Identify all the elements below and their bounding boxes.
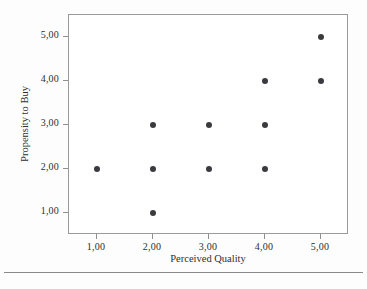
data-point: [262, 166, 268, 172]
x-axis-tick: [208, 234, 209, 239]
data-point: [94, 166, 100, 172]
data-point: [262, 122, 268, 128]
x-axis-title: Perceived Quality: [68, 253, 348, 264]
x-axis-tick: [96, 234, 97, 239]
data-point: [318, 34, 324, 40]
y-axis-tick: [63, 36, 68, 37]
x-axis-tick: [152, 234, 153, 239]
plot-area: [69, 15, 347, 233]
data-point: [206, 166, 212, 172]
data-point: [150, 210, 156, 216]
x-axis-tick-label: 4,00: [234, 241, 294, 252]
x-axis-tick-label: 2,00: [122, 241, 182, 252]
data-point: [206, 122, 212, 128]
x-axis-tick-label: 1,00: [66, 241, 126, 252]
y-axis-tick: [63, 124, 68, 125]
data-point: [150, 166, 156, 172]
data-point: [262, 78, 268, 84]
bottom-divider: [4, 272, 363, 273]
data-point: [150, 122, 156, 128]
x-axis-tick: [264, 234, 265, 239]
plot-frame: [68, 14, 348, 234]
x-axis-tick-label: 5,00: [290, 241, 350, 252]
x-axis-tick: [320, 234, 321, 239]
data-point: [318, 78, 324, 84]
x-axis-tick-label: 3,00: [178, 241, 238, 252]
y-axis-title: Propensity to Buy: [18, 14, 32, 234]
figure-canvas: 1,002,003,004,005,001,002,003,004,005,00…: [0, 0, 367, 289]
y-axis-tick: [63, 212, 68, 213]
y-axis-tick: [63, 80, 68, 81]
y-axis-tick: [63, 168, 68, 169]
